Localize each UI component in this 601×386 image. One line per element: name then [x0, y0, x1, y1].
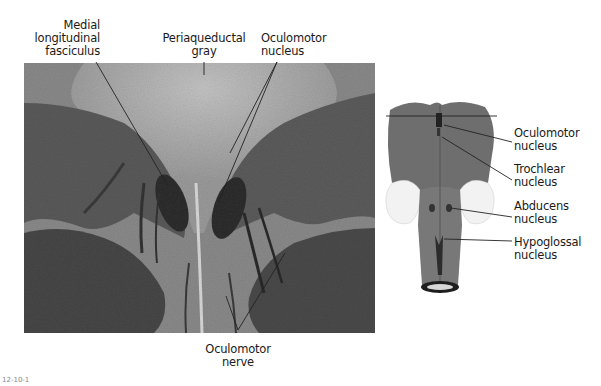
label-line: fasciculus — [30, 45, 100, 58]
label-line: nucleus — [514, 249, 599, 262]
label-trochlear-nucleus: Trochlear nucleus — [514, 163, 599, 189]
label-line: nucleus — [514, 176, 599, 189]
label-hypoglossal-nucleus: Hypoglossal nucleus — [514, 236, 599, 262]
label-line: nucleus — [261, 45, 341, 58]
label-oculomotor-nucleus-brainstem: Oculomotor nucleus — [514, 127, 599, 153]
label-line: gray — [154, 45, 254, 58]
label-line: nucleus — [514, 213, 599, 226]
label-abducens-nucleus: Abducens nucleus — [514, 200, 599, 226]
brainstem-dorsal-view-diagram — [380, 95, 500, 305]
midbrain-micrograph — [24, 63, 375, 333]
figure-number: 12-10-1 — [2, 376, 29, 384]
label-periaqueductal-gray: Periaqueductal gray — [154, 32, 254, 58]
label-medial-longitudinal-fasciculus: Medial longitudinal fasciculus — [30, 19, 100, 58]
label-oculomotor-nerve: Oculomotor nerve — [200, 343, 276, 369]
label-line: nucleus — [514, 140, 599, 153]
label-oculomotor-nucleus-micrograph: Oculomotor nucleus — [261, 32, 341, 58]
label-line: nerve — [200, 356, 276, 369]
